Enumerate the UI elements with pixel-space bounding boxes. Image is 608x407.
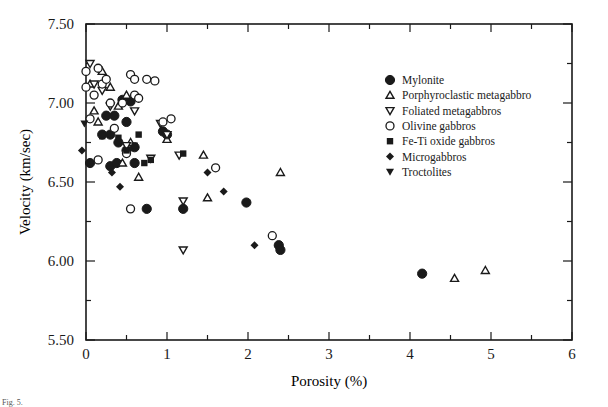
x-axis-title: Porosity (%) — [291, 373, 367, 390]
marker-filled-triangle-down — [80, 121, 88, 128]
marker-filled-diamond — [250, 241, 258, 249]
marker-filled-diamond — [78, 146, 86, 154]
marker-open-triangle-up — [94, 118, 102, 125]
legend-label: Mylonite — [402, 74, 444, 87]
marker-open-triangle-down — [179, 198, 187, 205]
marker-open-triangle-up — [386, 91, 394, 98]
legend-item: Troctolites — [386, 166, 452, 178]
marker-open-circle — [151, 77, 159, 85]
marker-open-triangle-up — [90, 107, 98, 114]
series-troctolites — [80, 121, 88, 128]
legend-label: Foliated metagabbros — [402, 105, 502, 118]
marker-filled-triangle-down — [386, 169, 394, 176]
marker-open-circle — [131, 75, 139, 83]
plot-axes: 01234565.506.006.507.007.50 — [48, 16, 577, 362]
marker-filled-circle — [122, 117, 131, 126]
marker-open-triangle-down — [179, 247, 187, 254]
y-tick-label: 7.50 — [48, 16, 74, 32]
marker-open-triangle-up — [481, 266, 489, 273]
marker-filled-circle — [110, 111, 119, 120]
marker-open-triangle-up — [135, 173, 143, 180]
marker-filled-diamond — [204, 169, 212, 177]
marker-open-triangle-up — [106, 83, 114, 90]
marker-filled-diamond — [220, 187, 228, 195]
y-tick-label: 5.50 — [48, 332, 74, 348]
marker-filled-square — [115, 135, 121, 141]
legend-item: Foliated metagabbros — [386, 105, 502, 118]
legend-item: Mylonite — [385, 74, 444, 87]
marker-open-circle — [94, 64, 102, 72]
legend-item: Fe-Ti oxide gabbros — [387, 135, 496, 148]
marker-filled-circle — [85, 158, 94, 167]
marker-open-circle — [386, 122, 394, 130]
legend: MylonitePorphyroclastic metagabbroFoliat… — [385, 74, 531, 178]
marker-open-circle — [268, 232, 276, 240]
marker-filled-circle — [130, 158, 139, 167]
legend-item: Porphyroclastic metagabbro — [386, 89, 532, 102]
y-tick-label: 6.50 — [48, 174, 74, 190]
marker-open-circle — [212, 164, 220, 172]
marker-open-circle — [94, 156, 102, 164]
marker-open-circle — [159, 118, 167, 126]
marker-open-triangle-up — [123, 91, 131, 98]
legend-label: Fe-Ti oxide gabbros — [402, 135, 495, 148]
marker-open-triangle-up — [204, 194, 212, 201]
figure-caption: Fig. 5. — [2, 398, 23, 407]
marker-open-triangle-down — [131, 108, 139, 115]
marker-filled-square — [99, 133, 105, 139]
marker-filled-square — [148, 157, 154, 163]
marker-open-circle — [110, 124, 118, 132]
y-axis-title: Velocity (km/sec) — [17, 129, 34, 235]
legend-item: Olivine gabbros — [386, 120, 476, 133]
x-tick-label: 3 — [325, 346, 333, 362]
marker-filled-diamond — [386, 153, 394, 161]
x-tick-label: 0 — [82, 346, 90, 362]
x-tick-label: 5 — [487, 346, 495, 362]
marker-open-circle — [90, 91, 98, 99]
marker-open-circle — [82, 83, 90, 91]
plot-frame — [86, 24, 572, 340]
marker-open-triangle-up — [276, 169, 284, 176]
marker-filled-circle — [418, 269, 427, 278]
legend-label: Olivine gabbros — [402, 120, 476, 133]
marker-filled-circle — [276, 245, 285, 254]
marker-open-triangle-down — [386, 108, 394, 115]
marker-filled-diamond — [116, 183, 124, 191]
marker-open-circle — [106, 99, 114, 107]
marker-open-circle — [82, 67, 90, 75]
marker-open-circle — [143, 75, 151, 83]
x-tick-label: 1 — [163, 346, 171, 362]
marker-open-triangle-down — [86, 61, 94, 68]
legend-label: Porphyroclastic metagabbro — [402, 89, 532, 102]
y-tick-label: 6.00 — [48, 253, 74, 269]
series-microgabbros — [78, 146, 259, 249]
legend-label: Microgabbros — [402, 151, 467, 164]
marker-filled-square — [131, 142, 137, 148]
x-tick-label: 2 — [244, 346, 252, 362]
marker-filled-square — [123, 147, 129, 153]
x-tick-label: 4 — [406, 346, 414, 362]
legend-item: Microgabbros — [386, 151, 467, 164]
x-tick-label: 6 — [568, 346, 576, 362]
marker-filled-square — [135, 131, 141, 137]
marker-filled-circle — [142, 204, 151, 213]
marker-open-circle — [118, 99, 126, 107]
marker-open-circle — [102, 75, 110, 83]
marker-open-triangle-up — [451, 274, 459, 281]
marker-filled-square — [141, 160, 147, 166]
marker-open-circle — [135, 94, 143, 102]
y-tick-label: 7.00 — [48, 95, 74, 111]
legend-label: Troctolites — [402, 166, 452, 178]
marker-open-circle — [127, 205, 135, 213]
marker-open-circle — [167, 115, 175, 123]
marker-filled-circle — [385, 75, 394, 84]
marker-filled-square — [107, 131, 113, 137]
marker-filled-circle — [242, 198, 251, 207]
marker-filled-square — [180, 150, 186, 156]
series-mylonite — [85, 95, 426, 278]
marker-filled-square — [387, 138, 393, 144]
marker-open-triangle-up — [199, 151, 207, 158]
